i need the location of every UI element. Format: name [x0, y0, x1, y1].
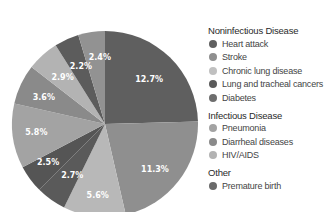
- slice-data-label: 11.3%: [141, 165, 169, 174]
- slice-data-label: 2.4%: [89, 53, 111, 62]
- legend-dot-icon: [209, 40, 217, 48]
- legend-item-diarrheal-diseases: Diarrheal diseases: [208, 135, 329, 149]
- legend-label: Premature birth: [222, 181, 281, 191]
- legend-group-other: Other Premature birth: [208, 167, 329, 193]
- legend: Noninfectious Disease Heart attack Strok…: [208, 25, 329, 198]
- legend-dot-icon: [209, 182, 217, 190]
- legend-label: HIV/AIDS: [222, 150, 259, 160]
- legend-dot-icon: [209, 151, 217, 159]
- legend-label: Heart attack: [222, 39, 268, 49]
- legend-item-hiv-aids: HIV/AIDS: [208, 149, 329, 163]
- slice-data-label: 2.7%: [61, 171, 83, 180]
- legend-dot-icon: [209, 53, 217, 61]
- legend-label: Lung and tracheal cancers: [222, 79, 323, 89]
- legend-item-diabetes: Diabetes: [208, 91, 329, 105]
- legend-dot-icon: [209, 67, 217, 75]
- slice-data-label: 12.7%: [135, 75, 163, 84]
- slice-data-label: 5.8%: [25, 128, 47, 137]
- legend-group-title: Infectious Disease: [208, 110, 329, 121]
- legend-item-heart-attack: Heart attack: [208, 37, 329, 51]
- legend-dot-icon: [209, 138, 217, 146]
- legend-item-premature-birth: Premature birth: [208, 179, 329, 193]
- legend-group-title: Noninfectious Disease: [208, 25, 329, 36]
- legend-label: Stroke: [222, 52, 247, 62]
- legend-label: Diabetes: [222, 93, 256, 103]
- slice-data-label: 2.9%: [51, 73, 73, 82]
- legend-group-noninfectious: Noninfectious Disease Heart attack Strok…: [208, 25, 329, 105]
- legend-item-pneumonia: Pneumonia: [208, 122, 329, 136]
- legend-item-stroke: Stroke: [208, 51, 329, 65]
- legend-item-chronic-lung-disease: Chronic lung disease: [208, 64, 329, 78]
- slice-data-label: 2.5%: [37, 158, 59, 167]
- legend-label: Pneumonia: [222, 123, 266, 133]
- legend-dot-icon: [209, 94, 217, 102]
- slice-data-label: 2.2%: [70, 62, 92, 71]
- pie-chart: 12.7%11.3%5.6%2.7%2.5%5.8%3.6%2.9%2.2%2.…: [0, 0, 210, 212]
- legend-dot-icon: [209, 124, 217, 132]
- legend-label: Diarrheal diseases: [222, 137, 293, 147]
- slice-data-label: 5.6%: [87, 191, 109, 200]
- legend-dot-icon: [209, 80, 217, 88]
- legend-item-lung-tracheal-cancers: Lung and tracheal cancers: [208, 78, 329, 92]
- legend-group-infectious: Infectious Disease Pneumonia Diarrheal d…: [208, 110, 329, 163]
- legend-group-title: Other: [208, 167, 329, 178]
- slice-data-label: 3.6%: [33, 93, 55, 102]
- legend-label: Chronic lung disease: [222, 66, 302, 76]
